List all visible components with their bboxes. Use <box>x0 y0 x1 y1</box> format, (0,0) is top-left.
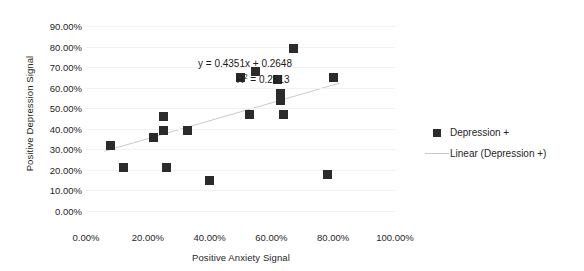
data-point-marker <box>149 133 158 142</box>
legend-line-icon <box>424 153 450 154</box>
y-axis-tick-label: 50.00% <box>20 103 82 114</box>
gridline <box>86 129 395 130</box>
legend-item-label: Linear (Depression +) <box>450 148 546 159</box>
gridline <box>86 149 395 150</box>
x-axis-title: Positive Anxiety Signal <box>86 252 396 263</box>
data-point-marker <box>323 170 332 179</box>
trendline <box>105 83 340 151</box>
data-point-marker <box>106 141 115 150</box>
gridline <box>86 26 395 27</box>
data-point-marker <box>276 96 285 105</box>
data-point-marker <box>289 44 298 53</box>
data-point-marker <box>119 163 128 172</box>
data-point-marker <box>159 126 168 135</box>
data-point-marker <box>162 163 171 172</box>
y-axis-tick-label: 20.00% <box>20 164 82 175</box>
y-axis-tick-label: 60.00% <box>20 82 82 93</box>
y-axis-tick-label: 70.00% <box>20 62 82 73</box>
y-axis-tick-label: 90.00% <box>20 21 82 32</box>
trendline-annotation: y = 0.4351x + 0.2648 R2 = 0.2613 <box>196 57 336 86</box>
data-point-marker <box>183 126 192 135</box>
legend-item[interactable]: Depression + <box>424 122 579 143</box>
x-axis-tick-label: 60.00% <box>236 232 306 243</box>
plot-area <box>86 26 395 211</box>
x-axis-tick-label: 20.00% <box>113 232 183 243</box>
gridline <box>86 211 395 212</box>
chart-legend: Depression +Linear (Depression +) <box>424 122 579 164</box>
y-axis-tick-label: 30.00% <box>20 144 82 155</box>
trendline-r-squared: R2 = 0.2613 <box>196 70 336 86</box>
data-point-marker <box>245 110 254 119</box>
x-axis-tick-label: 80.00% <box>298 232 368 243</box>
legend-square-icon <box>424 129 450 137</box>
y-axis-tick-label: 40.00% <box>20 123 82 134</box>
x-axis-tick-label: 0.00% <box>51 232 121 243</box>
gridline <box>86 47 395 48</box>
legend-item-label: Depression + <box>450 127 509 138</box>
gridline <box>86 170 395 171</box>
x-axis-tick-label: 40.00% <box>175 232 245 243</box>
x-axis-tick-labels: 0.00%20.00%40.00%60.00%80.00%100.00% <box>0 232 584 248</box>
trendline-equation: y = 0.4351x + 0.2648 <box>196 57 336 70</box>
x-axis-tick-label: 100.00% <box>360 232 430 243</box>
y-axis-tick-label: 0.00% <box>20 206 82 217</box>
y-axis-tick-labels: 0.00%10.00%20.00%30.00%40.00%50.00%60.00… <box>16 0 82 271</box>
trendline-svg <box>86 26 395 211</box>
gridline <box>86 108 395 109</box>
gridline <box>86 88 395 89</box>
scatter-chart: Positive Depression Signal 0.00%10.00%20… <box>0 0 584 271</box>
data-point-marker <box>279 110 288 119</box>
y-axis-tick-label: 10.00% <box>20 185 82 196</box>
data-point-marker <box>159 112 168 121</box>
legend-item[interactable]: Linear (Depression +) <box>424 143 579 164</box>
gridline <box>86 190 395 191</box>
data-point-marker <box>205 176 214 185</box>
y-axis-tick-label: 80.00% <box>20 41 82 52</box>
